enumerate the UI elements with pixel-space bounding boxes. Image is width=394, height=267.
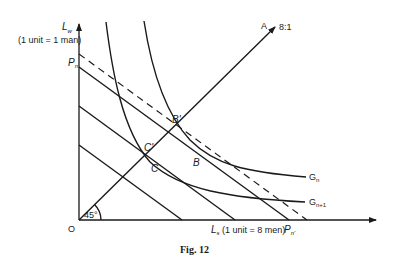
curve-label-gn: Gn [309,172,319,183]
isoquant-diagram: Lw (1 unit = 1 man) Pn A 8:1 B' B C' C G… [0,0,394,267]
curve-gn1 [106,22,305,202]
curve-label-gn1: Gn+1 [309,197,327,208]
budget-line-dashed [79,54,307,220]
budget-line-3 [79,145,182,220]
x-axis-label: Ls [211,224,220,236]
ray-label-a: A [261,21,267,31]
y-axis-unit-note: (1 unit = 1 man) [18,35,81,45]
point-label-pn-prime: Pn' [284,224,296,236]
origin-label: O [68,224,75,234]
curve-gn [144,21,306,177]
angle-label: 45° [84,210,98,220]
x-axis-unit-note: (1 unit = 8 men) [222,225,285,235]
point-label-b: B [193,157,200,168]
point-label-c-prime: C' [144,142,154,153]
y-axis-label: Lw [62,21,73,34]
point-label-pn: Pn [68,57,79,69]
ray-ratio-label: 8:1 [279,22,292,32]
point-label-b-prime: B' [172,114,182,125]
figure-caption: Fig. 12 [180,244,209,255]
point-label-c: C [151,163,159,174]
budget-line-pn [79,67,289,220]
